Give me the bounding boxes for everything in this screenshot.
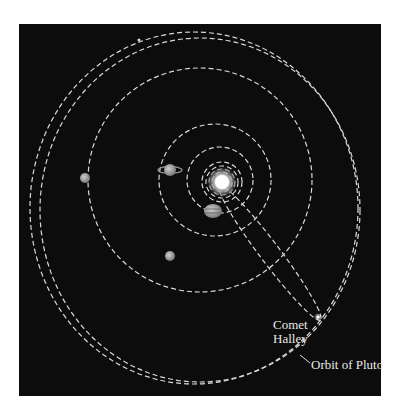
orbit-uranus: [88, 68, 312, 292]
pluto-label-pointer: [300, 355, 310, 363]
neptune-icon: [165, 251, 175, 261]
pluto-dot-icon: [138, 39, 141, 42]
comet-halley-label: Comet Halley: [273, 318, 308, 346]
orbit-comet-halley: [211, 180, 328, 326]
uranus-icon: [80, 173, 90, 183]
pluto-orbit-label: Orbit of Pluto: [311, 358, 383, 372]
saturn-icon: [158, 164, 182, 176]
jupiter-icon: [204, 204, 222, 218]
solar-system-diagram: [0, 0, 403, 413]
orbit-neptune: [40, 38, 360, 382]
